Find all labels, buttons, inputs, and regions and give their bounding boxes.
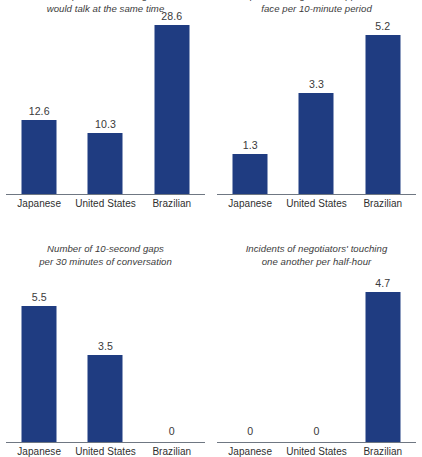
bar <box>365 35 400 194</box>
bar <box>154 25 189 194</box>
plot-area: 1.3 3.3 5.2 <box>211 25 422 195</box>
bar-slot: 5.2 <box>350 25 416 194</box>
category-label-japanese: Japanese <box>217 446 283 457</box>
bar-value-label: 10.3 <box>95 118 116 130</box>
bar-slot: 5.5 <box>6 273 72 442</box>
category-label-united-states: United States <box>72 446 138 457</box>
chart-panel-top-right: spend looking at their opponent's face p… <box>211 0 422 227</box>
plot-area: 12.6 10.3 28.6 <box>0 25 211 195</box>
bar <box>22 120 57 194</box>
bars-group: 5.5 3.5 0 <box>6 273 205 442</box>
bar-value-label: 0 <box>169 425 175 437</box>
bar-slot: 0 <box>217 273 283 442</box>
category-label-united-states: United States <box>72 198 138 209</box>
bar-slot: 1.3 <box>217 25 283 194</box>
category-label-japanese: Japanese <box>6 198 72 209</box>
bars-group: 12.6 10.3 28.6 <box>6 25 205 194</box>
category-label-brazilian: Brazilian <box>139 198 205 209</box>
x-axis-line <box>217 442 416 443</box>
category-label-united-states: United States <box>283 446 349 457</box>
bar <box>22 306 57 442</box>
plot-area: 0 0 4.7 <box>211 273 422 443</box>
bar-slot: 4.7 <box>350 273 416 442</box>
category-label-united-states: United States <box>283 198 349 209</box>
bar-value-label: 3.5 <box>98 340 113 352</box>
bars-group: 0 0 4.7 <box>217 273 416 442</box>
bar <box>88 355 123 442</box>
chart-panel-bottom-left: Number of 10-second gaps per 30 minutes … <box>0 228 211 455</box>
bar <box>233 154 268 194</box>
panel-title: spend looking at their opponent's face p… <box>219 0 414 16</box>
bar-value-label: 12.6 <box>29 105 50 117</box>
bar <box>88 133 123 194</box>
panel-title: Incidents of negotiators' touching one a… <box>219 242 414 269</box>
category-label-japanese: Japanese <box>217 198 283 209</box>
bars-group: 1.3 3.3 5.2 <box>217 25 416 194</box>
bar-value-label: 28.6 <box>161 10 182 22</box>
bar-slot: 0 <box>283 273 349 442</box>
category-label-brazilian: Brazilian <box>139 446 205 457</box>
chart-panel-bottom-right: Incidents of negotiators' touching one a… <box>211 228 422 455</box>
bar-slot: 12.6 <box>6 25 72 194</box>
bar-value-label: 4.7 <box>375 277 390 289</box>
bar-slot: 0 <box>139 273 205 442</box>
bar-value-label: 5.2 <box>375 20 390 32</box>
bar <box>299 93 334 194</box>
plot-area: 5.5 3.5 0 <box>0 273 211 443</box>
x-axis-line <box>6 442 205 443</box>
bar-value-label: 3.3 <box>309 78 324 90</box>
bar-slot: 28.6 <box>139 25 205 194</box>
category-label-brazilian: Brazilian <box>350 446 416 457</box>
bar-slot: 3.3 <box>283 25 349 194</box>
chart-panel-top-left: that both parties to the negotiation wou… <box>0 0 211 227</box>
category-label-japanese: Japanese <box>6 446 72 457</box>
panel-title: Number of 10-second gaps per 30 minutes … <box>8 242 203 269</box>
bar-value-label: 0 <box>247 425 253 437</box>
bar-slot: 3.5 <box>72 273 138 442</box>
bar-value-label: 5.5 <box>32 291 47 303</box>
bar-slot: 10.3 <box>72 25 138 194</box>
x-axis-line <box>217 194 416 195</box>
bar-value-label: 0 <box>313 425 319 437</box>
category-label-brazilian: Brazilian <box>350 198 416 209</box>
bar <box>365 292 400 442</box>
x-axis-line <box>6 194 205 195</box>
bar-value-label: 1.3 <box>243 139 258 151</box>
